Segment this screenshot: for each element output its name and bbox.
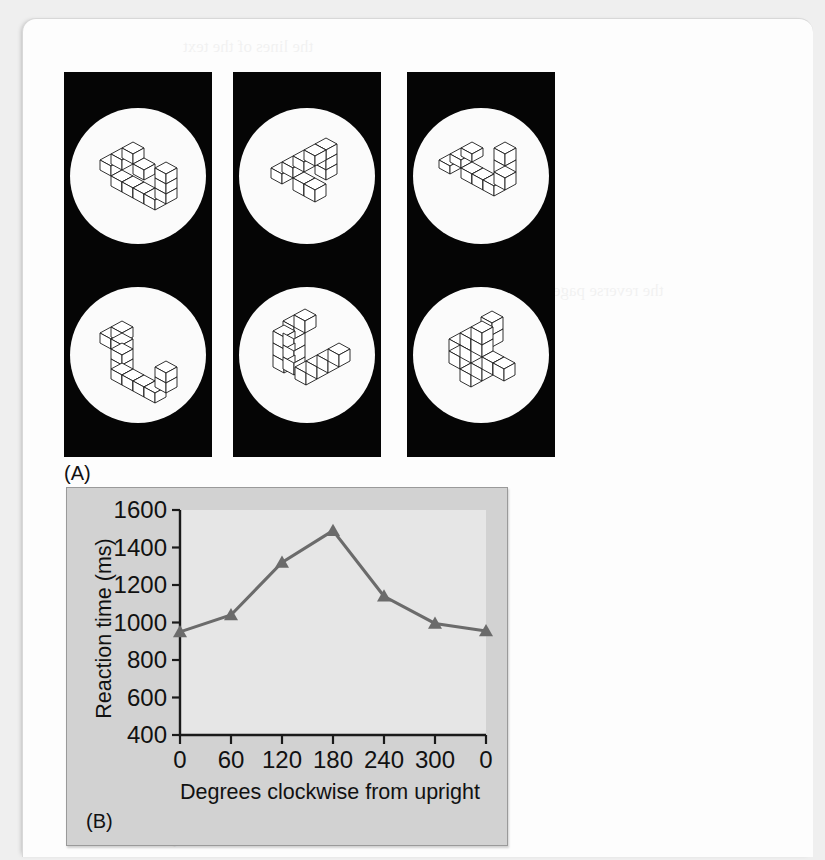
y-tick-label: 1000: [114, 609, 167, 636]
x-tick-label: 180: [313, 746, 353, 773]
y-tick-label: 400: [127, 721, 167, 748]
stimulus-disc-2-bottom: [239, 287, 375, 423]
panel-a-label: (A): [64, 462, 91, 485]
y-axis-title: Reaction time (ms): [92, 515, 117, 743]
y-tick-label: 1200: [114, 571, 167, 598]
block-figure-1b-icon: [70, 287, 206, 423]
y-tick-label: 600: [127, 684, 167, 711]
data-point-marker: [275, 556, 289, 568]
x-tick-label: 0: [173, 746, 186, 773]
stimulus-disc-3-bottom: [413, 287, 549, 423]
stimulus-disc-3-top: [413, 108, 549, 244]
x-tick-label: 60: [218, 746, 245, 773]
block-figure-3a-icon: [413, 108, 549, 244]
reaction-time-line-chart: 4006008001000120014001600060120180240300…: [67, 488, 507, 788]
panel-a-stimuli: (A): [64, 54, 778, 479]
y-tick-label: 1600: [114, 496, 167, 523]
stimulus-disc-1-bottom: [70, 287, 206, 423]
x-tick-label: 0: [479, 746, 492, 773]
y-tick-label: 800: [127, 646, 167, 673]
data-point-marker: [326, 524, 340, 536]
x-tick-label: 300: [415, 746, 455, 773]
x-tick-label: 120: [262, 746, 302, 773]
block-figure-1a-icon: [70, 108, 206, 244]
block-figure-2a-icon: [239, 108, 375, 244]
block-figure-3b-icon: [413, 287, 549, 423]
chart-axes: [180, 510, 486, 735]
panel-b-label: (B): [86, 810, 113, 833]
x-tick-label: 240: [364, 746, 404, 773]
stimulus-panel-3: [407, 72, 555, 457]
figure-page-card: the lines of the text the reverse page A…: [22, 18, 813, 857]
panel-b-chart: 4006008001000120014001600060120180240300…: [66, 487, 508, 846]
stimulus-disc-1-top: [70, 108, 206, 244]
y-tick-label: 1400: [114, 534, 167, 561]
stimulus-panel-1: [64, 72, 212, 457]
x-axis-title: Degrees clockwise from upright: [180, 780, 510, 805]
stimulus-disc-2-top: [239, 108, 375, 244]
block-figure-2b-icon: [239, 287, 375, 423]
stimulus-panel-2: [233, 72, 381, 457]
data-series-line: [180, 531, 486, 632]
